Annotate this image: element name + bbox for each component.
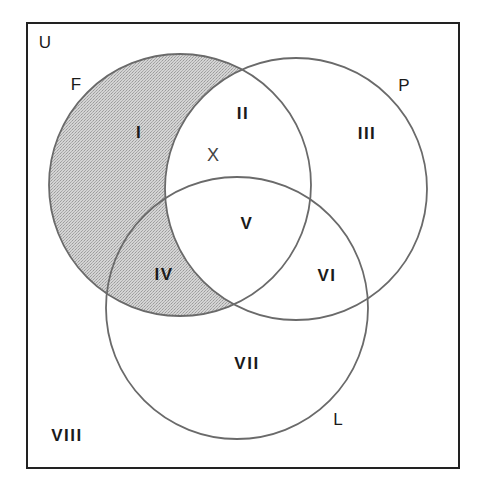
region-vii-label: VII <box>234 354 259 373</box>
shaded-region-f-minus-p <box>49 54 311 316</box>
universe-label: U <box>39 33 51 52</box>
region-v-label: V <box>241 214 254 233</box>
set-p-label: P <box>398 76 409 95</box>
region-i-label: I <box>136 123 142 142</box>
region-ii-label: II <box>237 104 249 123</box>
venn-diagram: U F P L X I II III IV V VI VII VIII <box>0 0 477 479</box>
region-iv-label: IV <box>154 265 173 284</box>
set-l-label: L <box>333 410 342 429</box>
marker-x-label: X <box>207 145 219 165</box>
region-viii-label: VIII <box>51 426 83 445</box>
region-vi-label: VI <box>317 266 336 285</box>
region-iii-label: III <box>358 124 377 143</box>
set-f-label: F <box>71 75 81 94</box>
